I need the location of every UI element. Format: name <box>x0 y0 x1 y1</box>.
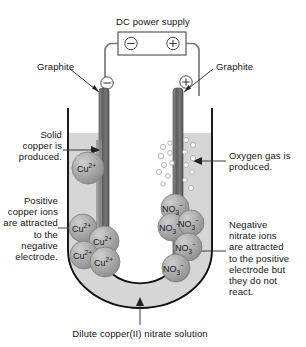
graphite-label-left: Graphite <box>37 61 97 72</box>
nitrate-ion-label: NO3− <box>178 217 199 231</box>
oxygen-bubble <box>166 174 171 179</box>
oxygen-bubble <box>184 163 189 168</box>
nitrate-ion-label: NO3− <box>175 241 196 255</box>
copper-ion-label: Cu2+ <box>77 162 96 174</box>
oxygen-bubble <box>158 153 164 159</box>
copper-ion-label: Cu2+ <box>93 235 112 247</box>
nitrate-ion-label: NO3− <box>163 262 184 276</box>
oxygen-bubble <box>161 162 166 167</box>
oxygen-bubble <box>183 178 188 183</box>
oxygen-bubble <box>184 138 189 143</box>
solution-caption: Dilute copper(II) nitrate solution <box>45 328 235 339</box>
copper-ion-label: Cu2+ <box>72 222 91 234</box>
oxygen-bubble <box>189 186 194 191</box>
nitrate-ion-label: NO3− <box>159 221 180 235</box>
oxygen-bubble <box>157 170 162 175</box>
oxygen-bubble <box>161 182 165 186</box>
oxygen-bubble <box>168 151 173 156</box>
nitrate-ion-label: NO3− <box>162 202 183 216</box>
electrolysis-diagram: DC power supply Graphite Graphite Solid … <box>0 0 306 347</box>
dc-power-supply-label: DC power supply <box>98 16 208 27</box>
oxygen-bubble <box>190 155 195 160</box>
solid-copper-annotation: Solid copper is produced. <box>4 129 62 163</box>
oxygen-bubble <box>160 144 165 149</box>
graphite-label-right: Graphite <box>216 61 276 72</box>
positive-ions-annotation: Positive copper ions are attracted to th… <box>0 195 58 262</box>
copper-ion-label: Cu2+ <box>94 256 113 268</box>
negative-ions-annotation: Negative nitrate ions are attracted to t… <box>229 219 305 297</box>
oxygen-bubble <box>183 150 188 155</box>
oxygen-bubble <box>190 142 195 147</box>
copper-ion-label: Cu2+ <box>73 249 92 261</box>
oxygen-bubble <box>190 170 195 175</box>
oxygen-bubble <box>170 161 175 166</box>
oxygen-bubble <box>168 141 172 145</box>
oxygen-gas-annotation: Oxygen gas is produced. <box>229 150 305 172</box>
